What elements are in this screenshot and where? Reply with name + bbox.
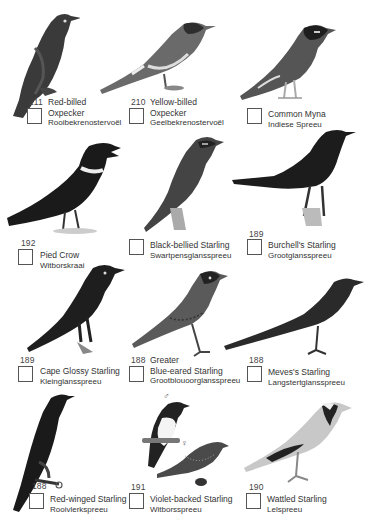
entry-number: 191 (131, 482, 145, 492)
label-black-bellied-starling: Black-bellied Starling Swartpensglansspr… (150, 240, 231, 261)
checkbox-violet-backed-starling[interactable] (129, 493, 144, 509)
label-violet-backed-starling: Violet-backed Starling Witborsspreeu (150, 494, 233, 515)
greater-blue-eared-starling-illustration (130, 268, 230, 358)
entry-number: 210 (131, 97, 145, 107)
label-burchells-starling: Burchell's Starling Grootglansspreeu (268, 240, 336, 261)
entry-number: 188 (32, 481, 46, 491)
checkbox-red-billed-oxpecker[interactable] (27, 108, 42, 124)
wattled-starling-illustration (242, 400, 354, 486)
checkbox-burchells-starling[interactable] (247, 239, 262, 255)
label-greater-blue-eared-starling: Greater Blue-eared Starling Grootblouoor… (150, 355, 240, 387)
label-meves-starling: Meves's Starling Langstertglansspreeu (268, 367, 345, 388)
black-bellied-starling-illustration (140, 134, 225, 234)
checkbox-wattled-starling[interactable] (246, 493, 261, 509)
yellow-billed-oxpecker-illustration (98, 18, 218, 96)
entry-number: 190 (249, 482, 263, 492)
label-wattled-starling: Wattled Starling Lelspreeu (267, 494, 327, 515)
checkbox-yellow-billed-oxpecker[interactable] (129, 108, 144, 124)
common-myna-illustration (238, 22, 338, 102)
checkbox-common-myna[interactable] (247, 108, 262, 124)
meves-starling-illustration (222, 276, 367, 356)
entry-number: 188 (249, 355, 263, 365)
violet-backed-starling-female-illustration (155, 440, 230, 488)
checkbox-greater-blue-eared-starling[interactable] (129, 366, 144, 382)
entry-number: 188 (131, 355, 145, 365)
label-cape-glossy-starling: Cape Glossy Starling Kleinglansspreeu (40, 366, 120, 387)
burchells-starling-illustration (230, 128, 360, 228)
entry-number: 189 (249, 229, 263, 239)
label-yellow-billed-oxpecker: Yellow-billed Oxpecker Geelbekrenostervo… (150, 97, 224, 129)
checkbox-meves-starling[interactable] (247, 366, 262, 382)
pied-crow-illustration (5, 140, 125, 235)
checkbox-cape-glossy-starling[interactable] (18, 366, 33, 382)
entry-number: 211 (29, 97, 43, 107)
entry-number: 189 (20, 355, 34, 365)
label-red-billed-oxpecker: Red-billed Oxpecker Rooibekrenostervoël (48, 97, 121, 129)
label-red-winged-starling: Red-winged Starling Rooivlerkspreeu (50, 494, 127, 515)
cape-glossy-starling-illustration (25, 262, 125, 357)
label-common-myna: Common Myna Indiese Spreeu (268, 109, 326, 130)
entry-number: 192 (21, 238, 35, 248)
checkbox-black-bellied-starling[interactable] (129, 239, 144, 255)
checkbox-red-winged-starling[interactable] (29, 493, 44, 509)
